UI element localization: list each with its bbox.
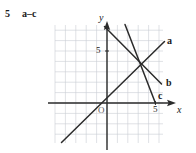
x-axis-tick-5: 5 <box>153 104 158 114</box>
line-label-b: b <box>166 77 172 88</box>
graph-line-a <box>62 42 165 143</box>
figure-container: 5 a–c <box>0 0 196 153</box>
exercise-parts: a–c <box>22 8 36 19</box>
line-label-a: a <box>167 35 172 46</box>
grid-lines <box>55 25 163 143</box>
graph-line-b <box>105 27 162 85</box>
exercise-number: 5 <box>5 8 10 19</box>
graph-line-c <box>125 25 155 104</box>
origin-label: O <box>98 105 105 115</box>
y-axis-label: y <box>99 12 103 23</box>
y-axis-tick-5: 5 <box>96 45 101 55</box>
x-axis-label: x <box>177 104 181 115</box>
line-label-c: c <box>158 90 162 101</box>
